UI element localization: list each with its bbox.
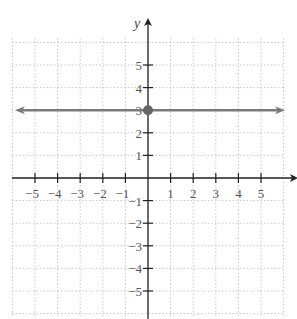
x-tick-label: 2 bbox=[190, 186, 197, 201]
x-tick-label: −3 bbox=[70, 186, 84, 201]
y-tick-label: −5 bbox=[128, 284, 142, 299]
x-tick-label: 3 bbox=[213, 186, 220, 201]
y-tick-label: 2 bbox=[136, 126, 143, 141]
line-series bbox=[20, 105, 280, 115]
y-axis-label: y bbox=[132, 16, 141, 31]
y-tick-label: 5 bbox=[136, 58, 143, 73]
tick-labels: y−5−4−3−2−11234554321−1−2−3−4−5 bbox=[25, 16, 264, 299]
y-tick-label: −4 bbox=[128, 261, 142, 276]
y-tick-label: −3 bbox=[128, 239, 142, 254]
axes bbox=[12, 22, 294, 319]
x-tick-label: −4 bbox=[48, 186, 62, 201]
y-tick-label: 4 bbox=[136, 81, 143, 96]
x-tick-label: −5 bbox=[25, 186, 39, 201]
x-tick-label: 1 bbox=[167, 186, 174, 201]
x-tick-label: −2 bbox=[93, 186, 107, 201]
x-tick-label: 4 bbox=[235, 186, 242, 201]
y-intercept-point bbox=[143, 105, 153, 115]
y-tick-label: 1 bbox=[136, 148, 143, 163]
y-tick-label: −1 bbox=[128, 194, 142, 209]
x-tick-label: 5 bbox=[258, 186, 265, 201]
coordinate-plane: y−5−4−3−2−11234554321−1−2−3−4−5 bbox=[0, 0, 297, 319]
y-tick-label: −2 bbox=[128, 216, 142, 231]
